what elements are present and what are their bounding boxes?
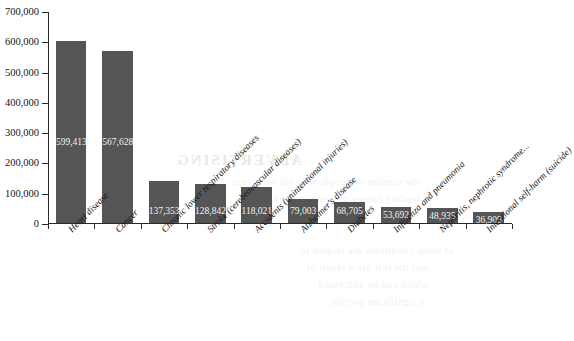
plot-area: 0100,000200,000300,000400,000500,000600,… xyxy=(48,12,512,224)
y-axis-tick-label: 300,000 xyxy=(5,128,39,139)
x-axis-category-labels: Heart diseaseCancerChronic lower respira… xyxy=(48,228,512,341)
bar-value-label: 599,413 xyxy=(56,138,87,148)
y-axis-tick-label: 400,000 xyxy=(5,98,39,109)
y-axis-tick-label: 0 xyxy=(34,219,39,230)
bar-series: 599,413567,628137,353128,842118,02179,00… xyxy=(48,12,512,224)
y-axis-tick-label: 200,000 xyxy=(5,158,39,169)
y-axis-tick-label: 500,000 xyxy=(5,67,39,78)
bar: 599,413 xyxy=(56,41,87,223)
y-axis-tick-label: 600,000 xyxy=(5,37,39,48)
y-axis-tick-label: 100,000 xyxy=(5,188,39,199)
y-axis-tick-label: 700,000 xyxy=(5,7,39,18)
x-axis-tick xyxy=(512,224,513,229)
bar-value-label: 567,628 xyxy=(102,138,133,148)
